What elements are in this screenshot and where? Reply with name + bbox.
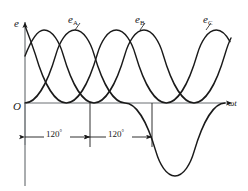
origin-label: O [13,101,21,112]
degree-symbol-icon: ° [60,128,63,135]
curve-label-eb: eB [135,14,144,27]
curve-label-ea: eA [68,14,78,27]
phase-shift-label-2-value: 120 [108,129,122,139]
curve-label-ea-subscript: A [73,19,78,26]
curve-label-eb-subscript: B [140,19,145,26]
curve-label-ec: eC [203,14,212,27]
curve-ec [25,30,231,103]
dimension-ticks [25,103,152,147]
curve-label-ec-subscript: C [208,19,213,26]
phase-shift-label-1-value: 120 [46,129,60,139]
degree-symbol-icon: ° [122,128,125,135]
phase-shift-label-1: 120° [46,129,62,139]
curve-ec-path [25,30,231,103]
y-axis-label: e [14,18,19,29]
x-axis-label: ωt [228,99,237,108]
three-phase-emf-figure: e O ωt eA eB eC 120° 120° [0,0,248,191]
waveform-plot [0,0,248,191]
phase-shift-label-2: 120° [108,129,124,139]
